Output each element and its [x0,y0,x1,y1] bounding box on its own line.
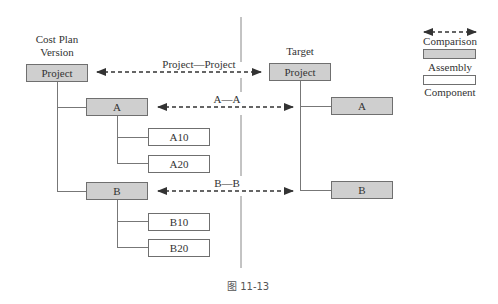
component-a20-label: A20 [170,158,189,170]
right-root-trunk [300,81,301,190]
right-assembly-a: A [331,97,393,115]
right-root-to-b [300,190,331,191]
right-project-label: Project [284,66,315,78]
b-comparison-label: B—B [197,177,257,189]
left-project-label: Project [41,67,72,79]
b-to-b20 [117,247,148,248]
a-to-a10 [117,137,148,138]
left-assembly-b-label: B [113,185,120,197]
project-comparison-label: Project—Project [139,58,259,70]
right-project-box: Project [269,63,331,81]
a-to-a20 [117,163,148,164]
component-b20: B20 [148,239,210,257]
a-comparison-label: A—A [197,93,257,105]
figure-caption: 图 11-13 [227,278,269,293]
right-root-to-a [300,106,331,107]
right-assembly-b-label: B [358,184,365,196]
left-root-trunk [57,82,58,191]
component-a20: A20 [148,155,210,173]
b-to-b10 [117,221,148,222]
left-project-box: Project [26,64,88,82]
legend-component-swatch [423,75,476,85]
left-assembly-a: A [86,98,148,116]
left-root-to-a [57,107,86,108]
left-assembly-b: B [86,182,148,200]
right-assembly-a-label: A [358,100,366,112]
b-branch-trunk [117,200,118,248]
left-heading: Cost Plan Version [27,33,87,59]
component-b20-label: B20 [170,242,188,254]
left-heading-line1: Cost Plan [27,33,87,46]
right-assembly-b: B [331,181,393,199]
legend-assembly-label: Assembly [418,61,482,73]
legend-assembly-swatch [423,49,476,59]
component-a10: A10 [148,128,210,146]
left-root-to-b [57,191,86,192]
left-heading-line2: Version [27,46,87,59]
legend-component-label: Component [418,86,482,98]
component-b10: B10 [148,213,210,231]
a-branch-trunk [117,116,118,164]
component-b10-label: B10 [170,216,188,228]
right-heading: Target [270,45,330,57]
component-a10-label: A10 [170,131,189,143]
left-assembly-a-label: A [113,101,121,113]
legend-comparison-label: Comparison [418,35,482,47]
